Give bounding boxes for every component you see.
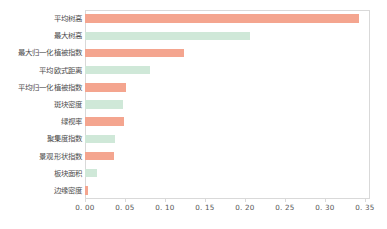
bar-track	[85, 79, 126, 96]
bar-track	[85, 165, 97, 182]
x-tick-mark	[125, 199, 126, 202]
bar-track	[85, 44, 184, 61]
category-label: 平均欧式距离	[0, 66, 82, 75]
bar-row: 最大树高	[0, 27, 387, 44]
category-label: 绿视率	[0, 117, 82, 126]
bar-chart: 平均树高最大树高最大归一化植被指数平均欧式距离平均归一化植被指数斑块密度绿视率聚…	[0, 0, 387, 229]
bar-rows-container: 平均树高最大树高最大归一化植被指数平均欧式距离平均归一化植被指数斑块密度绿视率聚…	[0, 10, 387, 199]
x-tick-label: 0. 25	[275, 203, 294, 212]
bar	[85, 49, 184, 58]
category-label: 平均归一化植被指数	[0, 83, 82, 92]
x-tick-label: 0. 05	[115, 203, 134, 212]
bar-row: 边缘密度	[0, 182, 387, 199]
bar	[85, 186, 88, 195]
bar-track	[85, 147, 114, 164]
bar-row: 板块面积	[0, 165, 387, 182]
x-tick-mark	[285, 199, 286, 202]
x-tick-label: 0. 15	[195, 203, 214, 212]
bar-track	[85, 113, 124, 130]
x-tick-label: 0. 30	[315, 203, 334, 212]
bar-track	[85, 130, 115, 147]
bar-track	[85, 96, 123, 113]
bar	[85, 135, 115, 144]
x-tick-label: 0. 00	[75, 203, 94, 212]
bar-row: 斑块密度	[0, 96, 387, 113]
x-tick-mark	[325, 199, 326, 202]
bar-track	[85, 10, 359, 27]
bar-row: 景观形状指数	[0, 147, 387, 164]
x-tick-mark	[85, 199, 86, 202]
bar	[85, 83, 126, 92]
bar	[85, 100, 123, 109]
bar	[85, 14, 359, 23]
x-tick-label: 0. 35	[355, 203, 374, 212]
category-label: 边缘密度	[0, 186, 82, 195]
category-label: 斑块密度	[0, 100, 82, 109]
bar-row: 平均树高	[0, 10, 387, 27]
bar-track	[85, 182, 88, 199]
bar	[85, 169, 97, 178]
bar	[85, 66, 150, 75]
bar	[85, 152, 114, 161]
bar-row: 平均归一化植被指数	[0, 79, 387, 96]
bar	[85, 117, 124, 126]
x-tick-label: 0. 20	[235, 203, 254, 212]
bar-row: 平均欧式距离	[0, 62, 387, 79]
bar-track	[85, 27, 250, 44]
x-tick-mark	[365, 199, 366, 202]
bar-row: 绿视率	[0, 113, 387, 130]
x-tick-mark	[165, 199, 166, 202]
x-tick-label: 0. 10	[155, 203, 174, 212]
bar-row: 聚集度指数	[0, 130, 387, 147]
category-label: 最大树高	[0, 31, 82, 40]
category-label: 聚集度指数	[0, 134, 82, 143]
bar-row: 最大归一化植被指数	[0, 44, 387, 61]
category-label: 最大归一化植被指数	[0, 48, 82, 57]
category-label: 平均树高	[0, 14, 82, 23]
x-tick-mark	[245, 199, 246, 202]
bar	[85, 32, 250, 41]
category-label: 景观形状指数	[0, 152, 82, 161]
bar-track	[85, 62, 150, 79]
x-axis: 0. 000. 050. 100. 150. 200. 250. 300. 35	[0, 199, 387, 229]
x-tick-mark	[205, 199, 206, 202]
category-label: 板块面积	[0, 169, 82, 178]
